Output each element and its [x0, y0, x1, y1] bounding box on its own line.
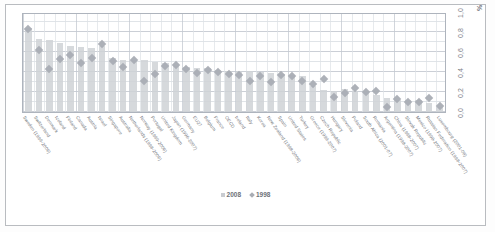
- bar-column[interactable]: [361, 14, 372, 112]
- y-axis: 0,00,20,40,60,81,0: [450, 5, 472, 121]
- legend-item-2008: 2008: [221, 191, 241, 198]
- bar-2008: [320, 90, 327, 112]
- bar-2008: [25, 28, 32, 112]
- bar-column[interactable]: [97, 14, 108, 112]
- y-axis-tick-label: 0,8: [450, 27, 472, 39]
- bar-column[interactable]: [128, 14, 139, 112]
- bar-column[interactable]: [266, 14, 277, 112]
- bar-column[interactable]: [276, 14, 287, 112]
- bar-column[interactable]: [223, 14, 234, 112]
- marker-1998: [425, 94, 433, 102]
- bar-2008: [99, 46, 106, 112]
- bar-column[interactable]: [318, 14, 329, 112]
- bar-series-container: [23, 14, 445, 112]
- bar-column[interactable]: [34, 14, 45, 112]
- y-axis-tick-label: 0,2: [450, 87, 472, 99]
- bar-2008: [215, 70, 222, 112]
- bar-column[interactable]: [139, 14, 150, 112]
- bar-column[interactable]: [202, 14, 213, 112]
- bar-column[interactable]: [255, 14, 266, 112]
- bar-column[interactable]: [76, 14, 87, 112]
- legend-swatch-diamond-icon: [249, 192, 255, 198]
- bar-2008: [162, 63, 169, 112]
- bar-column[interactable]: [55, 14, 66, 112]
- marker-1998: [372, 87, 380, 95]
- bar-column[interactable]: [181, 14, 192, 112]
- bar-2008: [109, 58, 116, 112]
- bar-2008: [46, 40, 53, 112]
- bar-column[interactable]: [434, 14, 445, 112]
- bar-column[interactable]: [403, 14, 414, 112]
- y-axis-tick-text: 0,4: [455, 62, 467, 84]
- y-axis-tick-text: 0,8: [455, 22, 467, 44]
- bar-column[interactable]: [287, 14, 298, 112]
- bar-column[interactable]: [192, 14, 203, 112]
- y-axis-tick-label: 0,6: [450, 47, 472, 59]
- y-axis-tick-text: 0,2: [455, 82, 467, 104]
- y-axis-tick-text: 1,0: [455, 2, 467, 24]
- bar-column[interactable]: [392, 14, 403, 112]
- x-axis-category-label: EU27: [192, 115, 203, 128]
- x-axis-category-label: Italy: [245, 115, 254, 125]
- bar-column[interactable]: [86, 14, 97, 112]
- bar-column[interactable]: [371, 14, 382, 112]
- bar-column[interactable]: [171, 14, 182, 112]
- bar-column[interactable]: [44, 14, 55, 112]
- bar-column[interactable]: [424, 14, 435, 112]
- legend-label-1998: 1998: [256, 191, 270, 198]
- bar-2008: [426, 103, 433, 112]
- bar-column[interactable]: [244, 14, 255, 112]
- legend-swatch-bar-icon: [221, 193, 225, 197]
- y-axis-tick-text: 0,6: [455, 42, 467, 64]
- bar-column[interactable]: [107, 14, 118, 112]
- y-axis-tick-label: 0,4: [450, 67, 472, 79]
- bar-column[interactable]: [150, 14, 161, 112]
- legend-item-1998: 1998: [250, 191, 270, 198]
- bar-column[interactable]: [23, 14, 34, 112]
- chart-frame: 0,00,20,40,60,81,0 % Sweden (1999-2006)S…: [5, 4, 486, 226]
- bar-2008: [141, 60, 148, 112]
- bar-2008: [78, 47, 85, 112]
- bar-column[interactable]: [329, 14, 340, 112]
- marker-1998: [319, 75, 327, 83]
- bar-column[interactable]: [350, 14, 361, 112]
- chart-legend: 2008 1998: [6, 191, 485, 198]
- bar-2008: [373, 95, 380, 112]
- bar-column[interactable]: [234, 14, 245, 112]
- bar-2008: [278, 74, 285, 112]
- y-axis-tick-label: 0,0: [450, 107, 472, 119]
- bar-2008: [310, 86, 317, 112]
- bar-2008: [289, 75, 296, 112]
- legend-label-2008: 2008: [227, 191, 241, 198]
- bar-column[interactable]: [160, 14, 171, 112]
- bar-column[interactable]: [413, 14, 424, 112]
- bar-column[interactable]: [213, 14, 224, 112]
- plot-area: [22, 13, 446, 113]
- bar-2008: [173, 66, 180, 112]
- bar-2008: [130, 60, 137, 112]
- bar-column[interactable]: [382, 14, 393, 112]
- bar-2008: [183, 67, 190, 112]
- bar-2008: [352, 91, 359, 112]
- x-axis-category-labels: Sweden (1999-2006)SwitzerlandDenmarkIcel…: [22, 115, 446, 185]
- bar-column[interactable]: [118, 14, 129, 112]
- bar-column[interactable]: [65, 14, 76, 112]
- bar-2008: [57, 43, 64, 112]
- chart-page: 0,00,20,40,60,81,0 % Sweden (1999-2006)S…: [0, 0, 495, 232]
- y-axis-tick-label: 1,0: [450, 7, 472, 19]
- bar-column[interactable]: [339, 14, 350, 112]
- bar-column[interactable]: [297, 14, 308, 112]
- y-axis-tick-text: 0,0: [455, 102, 467, 124]
- y-axis-unit-label: %: [476, 5, 483, 11]
- bar-column[interactable]: [308, 14, 319, 112]
